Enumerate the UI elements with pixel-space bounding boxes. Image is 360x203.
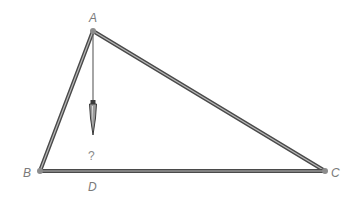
vertex-dots [37,28,328,174]
plumb-bob-icon [90,100,97,135]
vertex-a-dot [90,28,96,34]
vertex-b-label: B [23,166,31,180]
edge-ab [40,31,93,171]
triangle-edges [40,31,325,171]
vertex-b-dot [37,168,43,174]
unknown-marker-label: ? [88,149,95,163]
plumb-line [90,31,97,135]
vertex-a-label: A [88,11,97,25]
foot-point-d-label: D [88,180,97,194]
vertex-c-dot [322,168,328,174]
triangle-diagram: A B C D ? [0,0,360,203]
edge-ac [93,31,325,171]
vertex-c-label: C [331,166,340,180]
